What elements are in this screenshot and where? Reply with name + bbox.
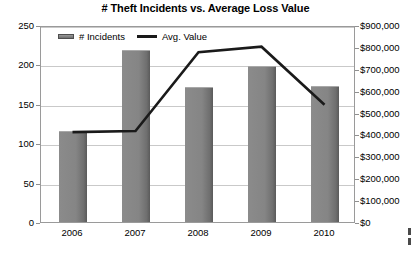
left-axis-tick-mark: [36, 223, 40, 224]
right-axis-tick-label: $200,000: [360, 174, 411, 184]
left-axis-tick-label: 100: [0, 139, 34, 149]
right-axis-tick-mark: [355, 114, 359, 115]
right-axis-tick-mark: [355, 70, 359, 71]
right-axis-tick-label: $100,000: [360, 196, 411, 206]
right-axis-tick-mark: [355, 92, 359, 93]
right-axis-tick-label: $900,000: [360, 21, 411, 31]
left-axis-tick-label: 150: [0, 100, 34, 110]
bar-swatch-icon: [58, 34, 74, 39]
chart-legend: # Incidents Avg. Value: [58, 31, 207, 42]
right-axis-tick-label: $800,000: [360, 43, 411, 53]
right-axis-tick-mark: [355, 223, 359, 224]
left-axis-tick-label: 50: [0, 179, 34, 189]
chart-container: # Theft Incidents vs. Average Loss Value…: [0, 0, 411, 253]
left-axis-tick-label: 0: [0, 218, 34, 228]
right-axis-tick-label: $0: [360, 218, 411, 228]
right-axis-tick-mark: [355, 179, 359, 180]
category-axis-label: 2009: [231, 227, 291, 238]
line-swatch-icon: [137, 35, 157, 38]
left-axis-tick-label: 250: [0, 21, 34, 31]
line-series-avg-value: [41, 27, 354, 222]
legend-item-incidents: # Incidents: [58, 31, 125, 42]
right-axis-tick-label: $300,000: [360, 152, 411, 162]
right-axis-tick-label: $700,000: [360, 65, 411, 75]
right-axis-tick-mark: [355, 201, 359, 202]
right-axis-tick-label: $500,000: [360, 109, 411, 119]
legend-label-avg-value: Avg. Value: [162, 31, 207, 42]
category-axis-label: 2010: [294, 227, 354, 238]
plot-area: [40, 26, 355, 223]
right-axis-tick-mark: [355, 26, 359, 27]
legend-label-incidents: # Incidents: [79, 31, 125, 42]
legend-item-avg-value: Avg. Value: [137, 31, 207, 42]
chart-title: # Theft Incidents vs. Average Loss Value: [0, 2, 411, 14]
left-axis-tick-label: 200: [0, 60, 34, 70]
right-axis-tick-mark: [355, 157, 359, 158]
category-axis-label: 2008: [168, 227, 228, 238]
right-axis-tick-mark: [355, 48, 359, 49]
category-axis-label: 2007: [105, 227, 165, 238]
right-axis-tick-label: $400,000: [360, 130, 411, 140]
category-axis-label: 2006: [42, 227, 102, 238]
right-axis-tick-label: $600,000: [360, 87, 411, 97]
right-axis-tick-mark: [355, 135, 359, 136]
